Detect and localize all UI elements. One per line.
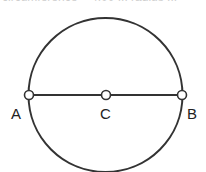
circle-diagram: A C B bbox=[0, 0, 206, 172]
label-A: A bbox=[11, 105, 21, 122]
point-B bbox=[178, 91, 187, 100]
point-A bbox=[25, 91, 34, 100]
point-C bbox=[102, 91, 111, 100]
label-C: C bbox=[100, 105, 111, 122]
label-B: B bbox=[187, 105, 197, 122]
